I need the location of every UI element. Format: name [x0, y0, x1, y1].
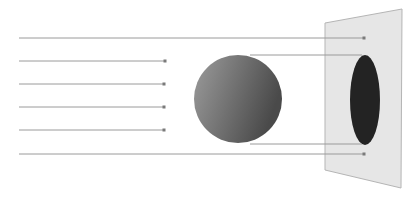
arrowhead-icon [163, 83, 166, 86]
ray-4 [19, 106, 166, 109]
light-rays [19, 37, 366, 156]
ray-2 [19, 60, 167, 63]
ray-6 [19, 153, 366, 156]
arrowhead-icon [164, 60, 167, 63]
arrowhead-icon [163, 106, 166, 109]
arrowhead-icon [163, 129, 166, 132]
arrowhead-icon [363, 37, 366, 40]
arrowhead-icon [363, 153, 366, 156]
elliptical-shadow [350, 55, 380, 145]
sphere [194, 55, 282, 143]
ray-5 [19, 129, 166, 132]
ray-3 [19, 83, 166, 86]
shadow-projection-diagram [0, 0, 420, 200]
ray-1 [19, 37, 366, 40]
